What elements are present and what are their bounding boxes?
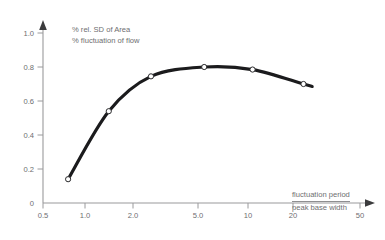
x-tick-label-5.0: 5.0 bbox=[193, 211, 204, 220]
x-tick-label-50: 50 bbox=[356, 211, 364, 220]
y-tick-label-0.6: 0.6 bbox=[23, 97, 34, 106]
y-tick-label-0.8: 0.8 bbox=[23, 63, 34, 72]
y-tick-label-0: 0 bbox=[30, 199, 34, 208]
x-axis-arrow-icon bbox=[365, 199, 375, 207]
x-axis-label: fluctuation period peak base width bbox=[292, 190, 350, 213]
data-point-marker bbox=[202, 64, 207, 69]
x-tick-label-10: 10 bbox=[244, 211, 252, 220]
x-tick-label-0.5: 0.5 bbox=[38, 211, 49, 220]
y-axis-label: % rel. SD of Area % fluctuation of flow bbox=[72, 25, 140, 46]
y-axis-tick-labels: 1.0 0.8 0.6 0.4 0.2 0 bbox=[23, 29, 34, 208]
y-tick-label-0.4: 0.4 bbox=[23, 131, 34, 140]
data-point-marker bbox=[250, 67, 255, 72]
x-tick-label-2.0: 2.0 bbox=[128, 211, 139, 220]
y-tick-label-1.0: 1.0 bbox=[23, 29, 34, 38]
data-point-marker bbox=[148, 74, 153, 79]
y-axis-label-line-1: % rel. SD of Area bbox=[72, 25, 130, 34]
y-axis-ticks bbox=[38, 33, 44, 169]
data-point-marker bbox=[66, 177, 71, 182]
data-point-marker bbox=[301, 81, 306, 86]
data-point-marker bbox=[106, 109, 111, 114]
data-series-curve bbox=[68, 67, 312, 180]
x-axis-label-denominator: peak base width bbox=[292, 202, 350, 213]
y-axis-label-line-2: % fluctuation of flow bbox=[72, 36, 140, 45]
y-tick-label-0.2: 0.2 bbox=[23, 165, 34, 174]
y-axis-arrow-icon bbox=[39, 20, 47, 30]
x-tick-label-1.0: 1.0 bbox=[80, 211, 91, 220]
x-axis-label-numerator: fluctuation period bbox=[292, 190, 350, 202]
chart-container: 1.0 0.8 0.6 0.4 0.2 0 0.5 1.0 2.0 5.0 10… bbox=[0, 0, 385, 240]
